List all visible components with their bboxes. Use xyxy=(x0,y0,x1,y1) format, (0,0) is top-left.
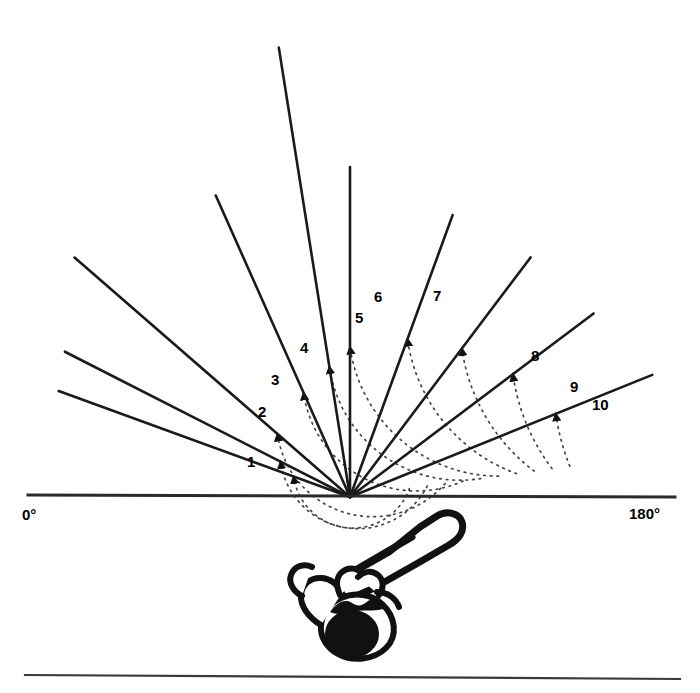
ray-line-2 xyxy=(350,313,594,497)
ray-number-7: 7 xyxy=(433,288,441,303)
ray-line-4 xyxy=(350,215,453,497)
ray-number-9: 9 xyxy=(570,379,578,394)
ray-number-4: 4 xyxy=(300,340,308,355)
overhead-view-batter-with-bat xyxy=(290,513,462,659)
ray-number-2: 2 xyxy=(258,404,266,419)
fan-diagram-svg xyxy=(0,0,700,693)
ray-number-3: 3 xyxy=(271,372,279,387)
baseline-0-to-180 xyxy=(28,495,675,497)
ray-number-8: 8 xyxy=(531,348,539,363)
arc-pointer-2 xyxy=(513,374,552,468)
ray-line-7 xyxy=(216,196,350,497)
arc-pointer-10 xyxy=(294,477,410,529)
arc-pointer-5 xyxy=(350,347,499,476)
arc-pointer-8 xyxy=(278,434,446,517)
axis-label-left: 0° xyxy=(22,506,36,523)
ray-line-10 xyxy=(59,391,350,497)
ray-number-1: 1 xyxy=(247,454,255,469)
diagram-canvas: 0° 180° 12345678910 xyxy=(0,0,700,693)
ray-number-5: 5 xyxy=(355,310,363,325)
arc-pointer-1 xyxy=(556,414,570,466)
axis-label-right: 180° xyxy=(629,505,660,522)
bottom-rule xyxy=(25,675,680,679)
ray-number-10: 10 xyxy=(592,397,609,412)
arc-pointer-4 xyxy=(408,339,517,474)
ray-number-6: 6 xyxy=(374,289,382,304)
